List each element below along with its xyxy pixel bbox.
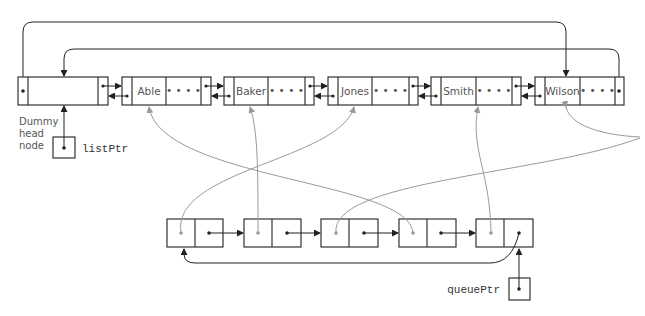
linked-list-diagram: Able • • • • Baker • • • • Jones • • • •… xyxy=(0,0,645,316)
list-node-able: Able • • • • xyxy=(122,77,211,105)
svg-text:head: head xyxy=(19,128,44,139)
node-name: Smith xyxy=(443,85,474,97)
node-name: Wilson xyxy=(545,85,580,97)
node-name: Able xyxy=(137,85,160,97)
node-name: Baker xyxy=(236,85,267,97)
node-name: Jones xyxy=(340,85,369,97)
list-node-smith: Smith • • • • xyxy=(431,77,521,105)
list-ptr-label: listPtr xyxy=(82,143,128,155)
queue-nodes xyxy=(167,219,533,263)
dummy-head-node xyxy=(18,77,108,105)
queue-ptr-label: queuePtr xyxy=(447,284,500,296)
ellipsis-text: • • • • xyxy=(269,84,304,96)
queue-to-list-pointers xyxy=(149,107,640,233)
list-node-jones: Jones • • • • xyxy=(328,77,418,105)
ellipsis-text: • • • • xyxy=(477,84,512,96)
ellipsis-text: • • • • xyxy=(580,84,615,96)
queue-node xyxy=(476,219,533,247)
queue-ptr: queuePtr xyxy=(447,249,530,300)
svg-text:node: node xyxy=(19,140,44,151)
ellipsis-text: • • • • xyxy=(166,84,201,96)
svg-text:Dummy: Dummy xyxy=(19,116,59,127)
list-node-baker: Baker • • • • xyxy=(224,77,314,105)
list-ptr: listPtr xyxy=(53,106,128,158)
ellipsis-text: • • • • xyxy=(373,84,408,96)
list-node-wilson: Wilson • • • • xyxy=(535,77,624,105)
